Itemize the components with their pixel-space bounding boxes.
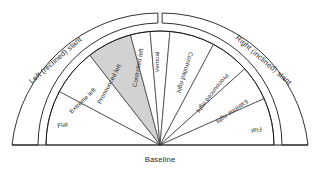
label-baseline: Baseline <box>145 155 176 164</box>
label-vertical: Vertical <box>153 52 160 73</box>
slant-gauge-diagram: Flat Extreme left Pronounced left Contro… <box>0 0 315 171</box>
slant-gauge-svg: Flat Extreme left Pronounced left Contro… <box>0 0 315 171</box>
